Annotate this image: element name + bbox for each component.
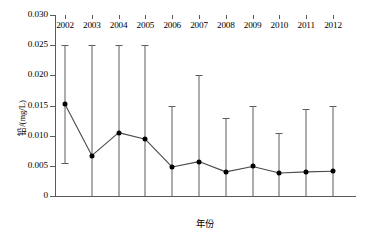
data-point (197, 159, 202, 164)
data-point (143, 137, 148, 142)
y-tick-label: 0.030 (28, 10, 48, 19)
data-point (331, 169, 336, 174)
data-point (89, 153, 94, 158)
data-point (170, 165, 175, 170)
y-tick-label: 0.025 (28, 41, 48, 50)
data-point (116, 130, 121, 135)
y-axis-title: 铅/(mg/L) (15, 100, 27, 136)
x-axis-title: 年份 (196, 216, 214, 230)
line-chart: 铅/(mg/L) 年份 00.0050.0100.0150.0200.0250.… (0, 0, 375, 235)
y-tick-label: 0.010 (28, 131, 48, 140)
x-axis-spine (55, 196, 356, 197)
y-tick-label: 0.005 (28, 161, 48, 170)
y-tick-label: 0 (44, 191, 49, 200)
plot-area: 00.0050.0100.0150.0200.0250.030 20022003… (55, 15, 355, 196)
y-tick-label: 0.020 (28, 71, 48, 80)
y-tick-label: 0.015 (28, 101, 48, 110)
y-tick (50, 196, 55, 197)
data-point (304, 169, 309, 174)
data-point (277, 171, 282, 176)
data-point (223, 169, 228, 174)
data-point (250, 164, 255, 169)
series-line (55, 15, 355, 196)
data-point (63, 102, 68, 107)
